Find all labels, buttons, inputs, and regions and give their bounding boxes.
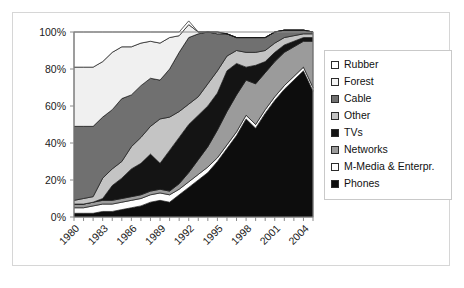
x-tick-label: 1992 <box>171 222 196 247</box>
legend-item-label: Cable <box>344 90 371 107</box>
y-tick-label: 0% <box>51 211 66 223</box>
plot-areas <box>74 21 313 217</box>
legend-swatch-icon <box>331 146 339 154</box>
legend-item-label: M-Media & Enterpr. <box>344 158 434 175</box>
legend-item[interactable]: M-Media & Enterpr. <box>331 158 451 175</box>
y-axis: 0%20%40%60%80%100% <box>39 26 74 223</box>
legend-item-label: Networks <box>344 141 388 158</box>
legend-item-label: Other <box>344 107 370 124</box>
legend-item-label: Rubber <box>344 56 378 73</box>
y-tick-label: 100% <box>39 26 66 38</box>
legend-swatch-icon <box>331 95 339 103</box>
chart-legend: RubberForestCableOtherTVsNetworksM-Media… <box>324 50 452 200</box>
x-tick-label: 1980 <box>56 222 81 247</box>
chart-figure: 0%20%40%60%80%100% 198019831986198919921… <box>0 0 464 288</box>
y-tick-label: 40% <box>45 137 66 149</box>
legend-swatch-icon <box>331 163 339 171</box>
legend-swatch-icon <box>331 61 339 69</box>
legend-swatch-icon <box>331 78 339 86</box>
legend-item[interactable]: Phones <box>331 175 451 192</box>
legend-item[interactable]: Cable <box>331 90 451 107</box>
legend-item[interactable]: Other <box>331 107 451 124</box>
y-tick-label: 60% <box>45 100 66 112</box>
x-tick-label: 1995 <box>200 222 225 247</box>
legend-item[interactable]: TVs <box>331 124 451 141</box>
x-axis: 198019831986198919921995199820012004 <box>56 217 313 247</box>
x-tick-label: 2001 <box>257 222 282 247</box>
y-tick-label: 20% <box>45 174 66 186</box>
legend-item[interactable]: Networks <box>331 141 451 158</box>
legend-item-label: Phones <box>344 175 380 192</box>
x-tick-label: 1983 <box>85 222 110 247</box>
legend-swatch-icon <box>331 129 339 137</box>
x-tick-label: 2004 <box>286 222 311 247</box>
legend-item-label: Forest <box>344 73 374 90</box>
x-tick-label: 1989 <box>142 222 167 247</box>
y-tick-label: 80% <box>45 63 66 75</box>
x-tick-label: 1986 <box>114 222 139 247</box>
legend-item[interactable]: Rubber <box>331 56 451 73</box>
legend-item[interactable]: Forest <box>331 73 451 90</box>
legend-swatch-icon <box>331 112 339 120</box>
x-tick-label: 1998 <box>228 222 253 247</box>
legend-item-label: TVs <box>344 124 363 141</box>
legend-swatch-icon <box>331 180 339 188</box>
